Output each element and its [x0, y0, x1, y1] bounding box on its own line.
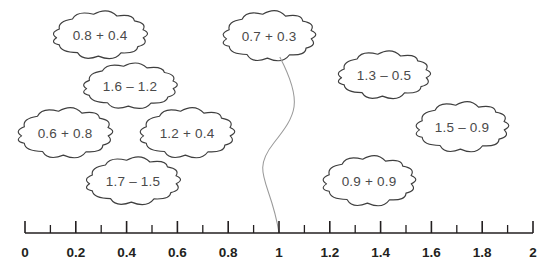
axis-tick-label: 2 — [529, 245, 537, 260]
cloud-shape[interactable] — [84, 63, 178, 108]
axis-tick-label: 0.2 — [66, 245, 85, 260]
figure-canvas — [0, 0, 553, 266]
cloud-shape[interactable] — [140, 108, 234, 158]
cloud-shape[interactable] — [416, 102, 509, 152]
axis-tick-label: 1.6 — [422, 245, 441, 260]
cloud-shape[interactable] — [338, 51, 430, 99]
axis-tick-label: 1.2 — [320, 245, 339, 260]
connector-curve — [263, 57, 295, 233]
axis-tick-label: 1 — [275, 245, 283, 260]
axis-tick-label: 0.8 — [219, 245, 238, 260]
cloud-shape[interactable] — [223, 11, 316, 61]
number-line-axis — [25, 221, 533, 233]
axis-tick-label: 1.8 — [473, 245, 492, 260]
cloud-shape[interactable] — [323, 156, 416, 206]
number-line-worksheet: 0.8 + 0.41.6 – 1.20.6 + 0.81.2 + 0.41.7 … — [0, 0, 553, 266]
axis-tick-label: 0 — [21, 245, 29, 260]
axis-tick-label: 1.4 — [371, 245, 390, 260]
connector-layer — [263, 57, 295, 233]
axis-tick-label: 0.6 — [168, 245, 187, 260]
cloud-shape[interactable] — [18, 108, 112, 158]
axis-tick-label: 0.4 — [117, 245, 136, 260]
cloud-shape[interactable] — [53, 11, 147, 59]
cloud-shape[interactable] — [86, 157, 180, 205]
